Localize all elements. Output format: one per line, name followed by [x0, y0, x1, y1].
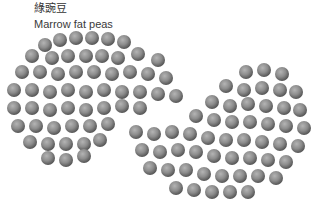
pea-cluster-right	[129, 63, 311, 199]
peas-photo	[0, 0, 322, 206]
